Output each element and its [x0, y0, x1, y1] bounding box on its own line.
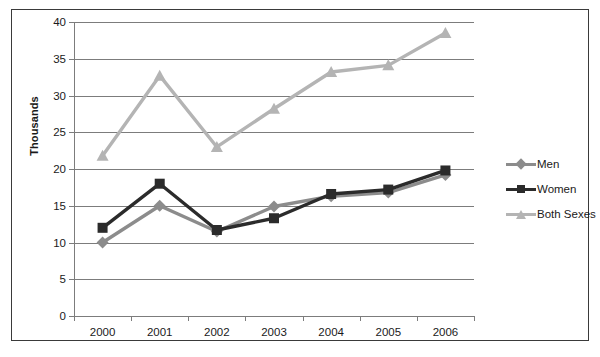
- legend-swatch-icon: [506, 182, 536, 196]
- data-point-marker: [268, 200, 280, 212]
- x-tick-mark: [245, 316, 246, 321]
- data-point-marker: [326, 189, 336, 199]
- legend-label: Men: [536, 158, 559, 170]
- x-tick-label: 2002: [204, 326, 230, 338]
- y-tick-label: 40: [53, 16, 66, 28]
- legend-swatch-icon: [506, 207, 536, 221]
- y-tick-label: 0: [60, 310, 66, 322]
- legend-item-men[interactable]: Men: [506, 151, 600, 176]
- x-tick-mark: [303, 316, 304, 321]
- y-tick-label: 35: [53, 53, 66, 65]
- x-tick-mark: [474, 316, 475, 321]
- y-tick-label: 20: [53, 163, 66, 175]
- y-tick-label: 25: [53, 126, 66, 138]
- x-tick-label: 2003: [261, 326, 287, 338]
- x-tick-mark: [131, 316, 132, 321]
- x-tick-label: 2004: [318, 326, 344, 338]
- data-point-marker: [439, 27, 451, 38]
- x-tick-label: 2000: [90, 326, 116, 338]
- series-line: [103, 33, 446, 156]
- data-point-marker: [212, 225, 222, 235]
- x-tick-label: 2006: [433, 326, 459, 338]
- data-point-marker: [154, 70, 166, 81]
- y-tick-label: 10: [53, 237, 66, 249]
- y-tick-label: 5: [60, 273, 66, 285]
- x-tick-label: 2005: [375, 326, 401, 338]
- series-men: [97, 169, 452, 249]
- legend-item-women[interactable]: Women: [506, 176, 600, 201]
- x-tick-mark: [74, 316, 75, 321]
- data-point-marker: [383, 185, 393, 195]
- gridline: [74, 316, 474, 317]
- legend-marker: [515, 158, 526, 169]
- legend-item-both-sexes[interactable]: Both Sexes: [506, 201, 600, 226]
- x-tick-mark: [188, 316, 189, 321]
- plot-area: 0510152025303540 20002001200220032004200…: [74, 22, 474, 316]
- legend-label: Both Sexes: [536, 208, 596, 220]
- data-point-marker: [269, 213, 279, 223]
- data-point-marker: [98, 223, 108, 233]
- x-tick-mark: [360, 316, 361, 321]
- series-women: [98, 165, 451, 235]
- data-point-marker: [440, 165, 450, 175]
- legend-marker: [517, 185, 525, 193]
- chart-legend: MenWomenBoth Sexes: [506, 151, 600, 226]
- series-both-sexes: [97, 27, 452, 161]
- x-tick-label: 2001: [147, 326, 173, 338]
- y-axis-title: Thousands: [28, 66, 40, 186]
- data-point-marker: [155, 179, 165, 189]
- series-plot: [74, 22, 474, 316]
- legend-label: Women: [536, 183, 576, 195]
- x-tick-mark: [417, 316, 418, 321]
- y-tick-label: 15: [53, 200, 66, 212]
- chart-figure: Thousands 0510152025303540 2000200120022…: [11, 9, 589, 341]
- legend-swatch-icon: [506, 157, 536, 171]
- y-tick-label: 30: [53, 90, 66, 102]
- legend-marker: [516, 210, 526, 219]
